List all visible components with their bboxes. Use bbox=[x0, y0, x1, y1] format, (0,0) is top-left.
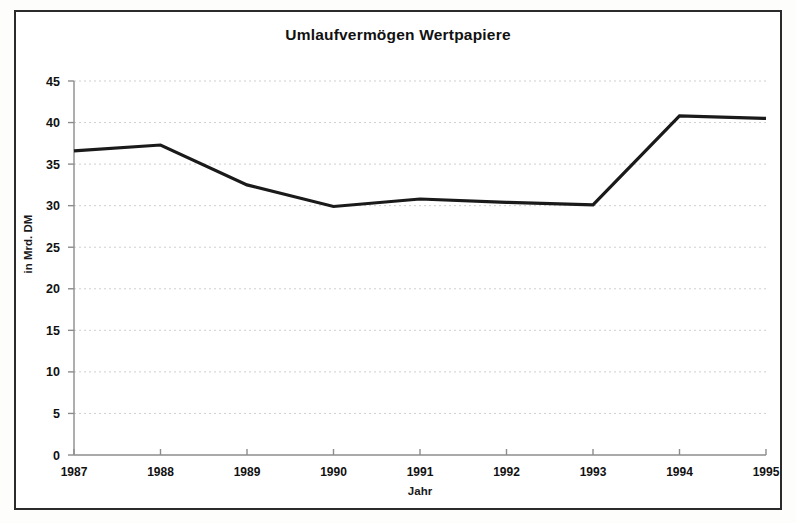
x-axis-tick-label: 1992 bbox=[493, 465, 520, 479]
y-axis-tick-label: 45 bbox=[46, 75, 60, 89]
y-axis-tick-label: 30 bbox=[46, 199, 60, 213]
x-axis-tick-label: 1990 bbox=[320, 465, 347, 479]
x-axis-tick-label: 1994 bbox=[666, 465, 693, 479]
y-axis-tick-label: 20 bbox=[46, 282, 60, 296]
y-axis-tick-label: 0 bbox=[53, 449, 60, 463]
chart-figure: Umlaufvermögen Wertpapiere in Mrd. DM Ja… bbox=[0, 0, 796, 523]
x-axis-tick-label: 1991 bbox=[407, 465, 434, 479]
y-axis-tick-label: 40 bbox=[46, 116, 60, 130]
y-axis-tick-label: 35 bbox=[46, 158, 60, 172]
x-axis-tick-label: 1995 bbox=[753, 465, 780, 479]
y-axis-tick-label: 10 bbox=[46, 365, 60, 379]
x-axis-tick-label: 1989 bbox=[234, 465, 261, 479]
y-axis-tick-label: 25 bbox=[46, 241, 60, 255]
x-axis-ticks-group: 198719881989199019911992199319941995 bbox=[61, 449, 780, 479]
data-series-line bbox=[74, 116, 766, 207]
x-axis-tick-label: 1988 bbox=[147, 465, 174, 479]
line-chart-plot: 051015202530354045 198719881989199019911… bbox=[0, 0, 796, 523]
y-axis-ticks-group: 051015202530354045 bbox=[46, 75, 74, 463]
x-axis-tick-label: 1993 bbox=[580, 465, 607, 479]
y-axis-tick-label: 5 bbox=[53, 407, 60, 421]
y-axis-tick-label: 15 bbox=[46, 324, 60, 338]
gridlines-group bbox=[74, 81, 766, 413]
x-axis-tick-label: 1987 bbox=[61, 465, 88, 479]
